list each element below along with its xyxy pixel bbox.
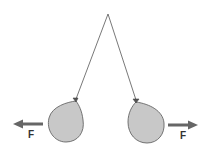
right-force-arrow [168,121,198,130]
right-string [108,14,136,100]
right-balloon [128,99,164,143]
right-force-label: F [180,130,186,141]
left-string [76,14,108,99]
left-force-arrow [13,120,43,129]
balloon-repulsion-diagram: F F [0,0,210,154]
left-force-label: F [28,129,34,140]
left-balloon [48,98,83,142]
